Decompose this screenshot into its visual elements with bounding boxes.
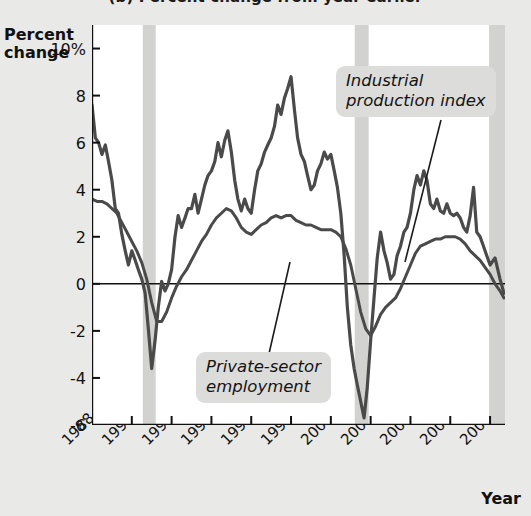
annotation-ipi-line1: Industrial [346, 71, 486, 91]
annotation-emp-line2: employment [206, 377, 321, 397]
annotation-emp-line1: Private-sector [206, 357, 321, 377]
chart-figure: (b) Percent change from year earlier Per… [0, 0, 531, 516]
recession-band-1 [143, 25, 156, 425]
annotation-private-employment: Private-sector employment [196, 352, 331, 403]
annotation-industrial-production: Industrial production index [336, 66, 496, 117]
annotation-ipi-line2: production index [346, 91, 486, 111]
